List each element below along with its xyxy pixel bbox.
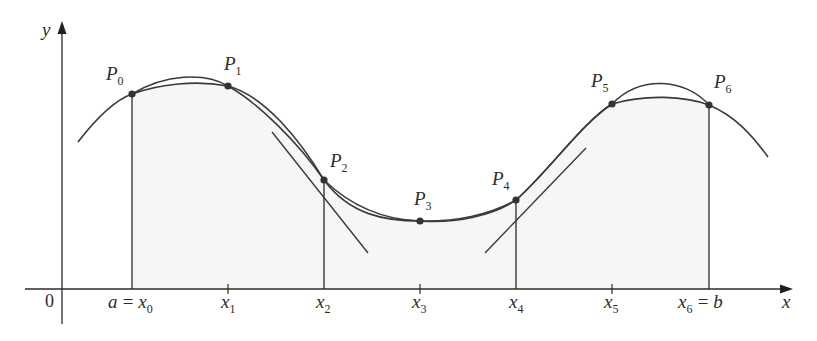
label-p5: P5 <box>590 70 609 95</box>
label-p1: P1 <box>223 53 242 78</box>
tick-label-x4: x4 <box>508 291 523 316</box>
x-tick-labels: a=x0 x1 x2 x3 x4 x5 x6=b <box>108 291 723 316</box>
x-axis-label: x <box>781 291 791 312</box>
tick-label-x3: x3 <box>411 291 426 316</box>
point-p1 <box>224 82 231 89</box>
y-axis-arrow-icon <box>58 21 67 34</box>
tick-label-x6: x6=b <box>677 291 723 316</box>
label-p3: P3 <box>413 188 432 213</box>
tick-label-x2: x2 <box>315 291 330 316</box>
point-p0 <box>128 90 135 97</box>
point-p2 <box>320 176 327 183</box>
tick-label-x5: x5 <box>603 291 618 316</box>
label-p2: P2 <box>329 150 348 175</box>
point-p4 <box>512 196 519 203</box>
label-p4: P4 <box>491 168 510 193</box>
tick-label-x0: a=x0 <box>108 291 153 316</box>
point-p5 <box>608 100 615 107</box>
label-p6: P6 <box>713 71 732 96</box>
simpsons-rule-diagram: P0 P1 P2 P3 P4 P5 P6 y x 0 a=x0 x1 x2 x3… <box>0 0 817 341</box>
point-p3 <box>416 217 423 224</box>
tick-label-x1: x1 <box>220 291 235 316</box>
y-axis-label: y <box>40 19 51 40</box>
origin-label: 0 <box>45 291 54 311</box>
shaded-area <box>132 83 709 289</box>
label-p0: P0 <box>105 63 124 88</box>
point-p6 <box>705 101 712 108</box>
